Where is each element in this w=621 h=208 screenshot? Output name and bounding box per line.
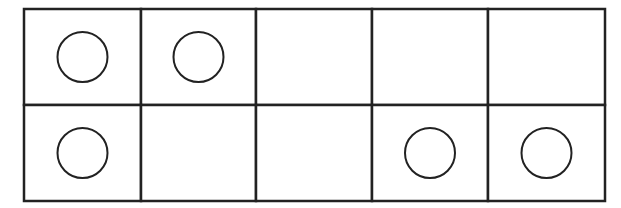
frame-cell	[372, 105, 488, 201]
frame-cell	[488, 9, 605, 105]
frame-cell	[256, 105, 372, 201]
frame-cell	[256, 9, 372, 105]
frame-cell	[488, 105, 605, 201]
frame-cell	[24, 9, 141, 105]
frame-cell	[141, 9, 256, 105]
frame-cell	[141, 105, 256, 201]
frame-cell	[24, 105, 141, 201]
ten-frame	[0, 0, 621, 208]
frame-cell	[372, 9, 488, 105]
